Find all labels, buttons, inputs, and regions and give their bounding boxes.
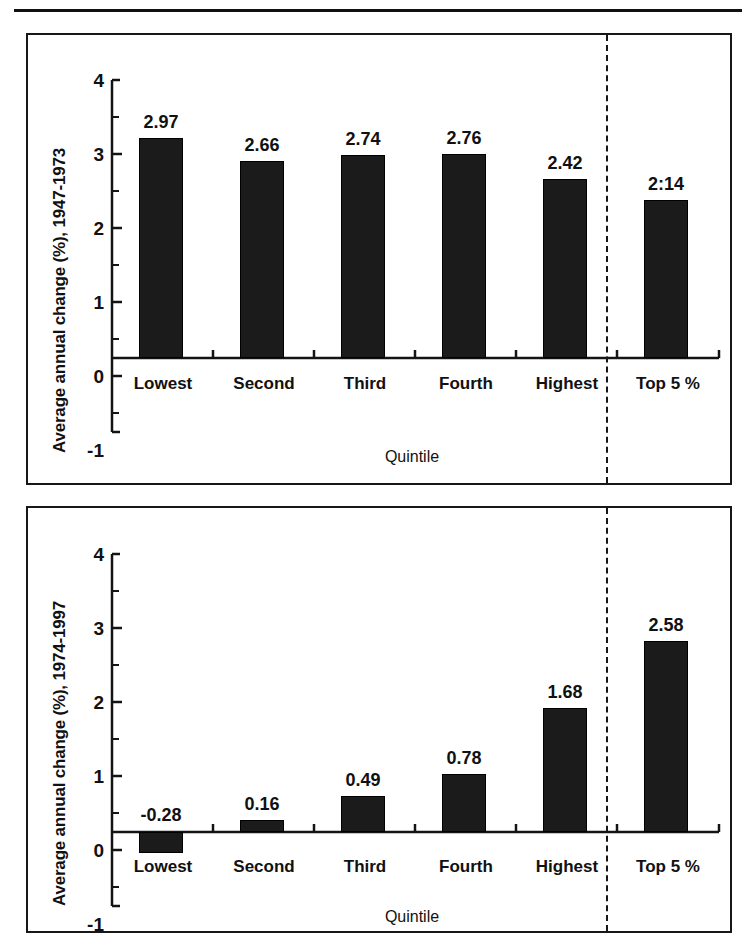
- bar-value-lowest: 2.97: [121, 113, 201, 131]
- category-label-fourth: Fourth: [416, 858, 516, 875]
- bar-fourth: [442, 154, 486, 358]
- bar-lowest: [139, 138, 183, 358]
- bar-top5: [644, 200, 688, 358]
- bar-second: [240, 820, 284, 832]
- chart-panel-1974-1997: Average annual change (%), 1974-1997 4 3…: [26, 506, 732, 933]
- page-top-rule: [14, 9, 742, 12]
- category-label-lowest: Lowest: [113, 375, 213, 392]
- bar-value-top5: 2.58: [626, 616, 706, 634]
- bar-third: [341, 796, 385, 832]
- category-label-highest: Highest: [517, 375, 617, 392]
- category-label-highest: Highest: [517, 858, 617, 875]
- bar-value-third: 2.74: [323, 130, 403, 148]
- bar-highest: [543, 179, 587, 358]
- category-label-third: Third: [315, 375, 415, 392]
- category-label-fourth: Fourth: [416, 375, 516, 392]
- x-axis-title: Quintile: [312, 448, 512, 466]
- category-label-second: Second: [214, 375, 314, 392]
- bar-value-second: 0.16: [222, 795, 302, 813]
- bar-value-third: 0.49: [323, 771, 403, 789]
- category-label-top5: Top 5 %: [618, 858, 718, 875]
- bar-value-lowest: -0.28: [121, 806, 201, 824]
- bar-value-top5: 2:14: [626, 175, 706, 193]
- bar-lowest: [139, 832, 183, 853]
- bar-value-second: 2.66: [222, 136, 302, 154]
- category-label-lowest: Lowest: [113, 858, 213, 875]
- bar-fourth: [442, 774, 486, 832]
- category-label-top5: Top 5 %: [618, 375, 718, 392]
- chart-panel-1947-1973: Average annual change (%), 1947-1973 4 3…: [26, 33, 732, 485]
- bar-top5: [644, 641, 688, 832]
- x-axis-title: Quintile: [312, 908, 512, 926]
- bar-second: [240, 161, 284, 358]
- bar-value-highest: 1.68: [525, 683, 605, 701]
- bar-highest: [543, 708, 587, 832]
- bar-value-highest: 2.42: [525, 154, 605, 172]
- bar-third: [341, 155, 385, 358]
- bar-value-fourth: 2.76: [424, 129, 504, 147]
- category-label-second: Second: [214, 858, 314, 875]
- bar-value-fourth: 0.78: [424, 749, 504, 767]
- category-label-third: Third: [315, 858, 415, 875]
- top5-separator: [606, 35, 608, 483]
